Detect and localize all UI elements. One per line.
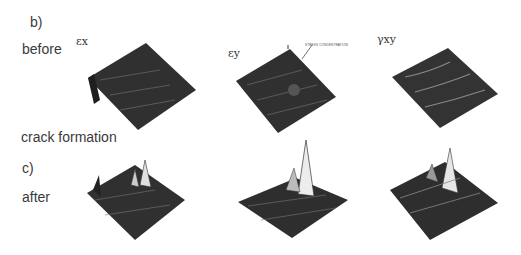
after-gamma-xy-surface (390, 148, 505, 243)
after-epsilon-y-surface (236, 140, 351, 240)
panel-label-c: c) (22, 160, 34, 176)
before-epsilon-y-surface (232, 45, 342, 135)
before-gamma-xy-surface (390, 42, 505, 132)
panel-label-b: b) (30, 14, 42, 30)
after-label: after (22, 189, 50, 205)
before-label: before (22, 41, 62, 57)
after-epsilon-x-surface (85, 155, 190, 245)
before-epsilon-x-surface (80, 40, 200, 135)
